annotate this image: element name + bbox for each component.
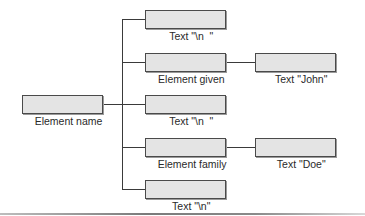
child-node-text-newline-3: Text "\n" <box>145 180 226 199</box>
node-label: Element family <box>158 158 227 170</box>
grandchild-node-text-doe: Text "Doe" <box>255 138 336 157</box>
node-label: Text "Doe" <box>277 158 326 170</box>
child-node-element-given: Element given <box>145 53 226 72</box>
branch-connector-5 <box>122 189 145 190</box>
node-label: Element given <box>158 73 225 85</box>
node-label: Text "\n " <box>169 30 213 42</box>
branch-connector-3 <box>122 104 145 105</box>
root-connector <box>102 104 122 105</box>
branch-connector-2 <box>122 62 145 63</box>
node-label: Element name <box>35 115 103 127</box>
branch-connector-1 <box>122 19 145 20</box>
family-to-doe-connector <box>226 147 255 148</box>
child-node-text-newline-2: Text "\n " <box>145 95 226 114</box>
child-node-element-family: Element family <box>145 138 226 157</box>
node-label: Text "John" <box>275 73 327 85</box>
grandchild-node-text-john: Text "John" <box>255 53 336 72</box>
branch-connector-4 <box>122 147 145 148</box>
bottom-divider <box>0 213 365 215</box>
given-to-john-connector <box>226 62 255 63</box>
child-node-text-newline-1: Text "\n " <box>145 10 226 29</box>
node-label: Text "\n " <box>169 115 213 127</box>
root-node-element-name: Element name <box>22 95 103 114</box>
node-label: Text "\n" <box>172 200 210 212</box>
